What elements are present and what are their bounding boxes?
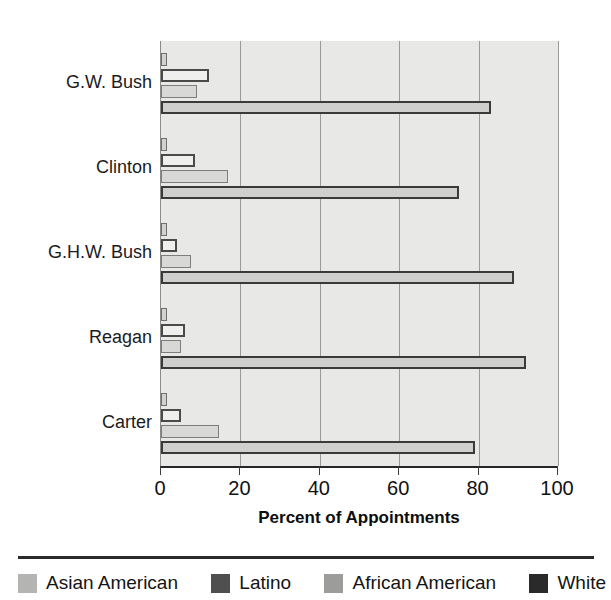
x-axis-tick (557, 466, 558, 475)
legend-swatch-icon (18, 574, 37, 593)
x-axis-tick (398, 466, 399, 475)
legend-item: White (529, 572, 606, 594)
bar-group (161, 126, 558, 211)
x-axis-tick-label: 100 (527, 477, 587, 500)
legend-label: Asian American (46, 572, 178, 594)
y-axis-tick-label: G.W. Bush (2, 72, 152, 93)
bar (161, 85, 197, 98)
y-axis-tick-label: Reagan (2, 327, 152, 348)
bar (161, 239, 177, 252)
x-axis-tick-label: 60 (368, 477, 428, 500)
bar (161, 340, 181, 353)
legend-divider (18, 556, 594, 559)
x-axis-tick-label: 40 (289, 477, 349, 500)
chart-legend: Asian AmericanLatinoAfrican AmericanWhit… (18, 570, 606, 596)
gridline (558, 41, 559, 466)
y-axis-tick-label: Clinton (2, 157, 152, 178)
x-axis-line (160, 466, 558, 468)
bar (161, 356, 526, 369)
bar (161, 425, 219, 438)
x-axis-tick (319, 466, 320, 475)
legend-swatch-icon (529, 574, 548, 593)
bar (161, 409, 181, 422)
legend-label: Latino (239, 572, 291, 594)
bar (161, 255, 191, 268)
bar-group (161, 381, 558, 466)
bar (161, 308, 167, 321)
bar (161, 170, 228, 183)
x-axis-tick (239, 466, 240, 475)
bar-group (161, 211, 558, 296)
legend-item: Asian American (18, 572, 178, 594)
bar (161, 138, 167, 151)
y-axis-tick-label: Carter (2, 412, 152, 433)
bar (161, 324, 185, 337)
x-axis-tick-label: 80 (448, 477, 508, 500)
x-axis-tick (160, 466, 161, 475)
bar (161, 393, 167, 406)
legend-label: African American (352, 572, 496, 594)
bar-group (161, 41, 558, 126)
legend-label: White (557, 572, 606, 594)
legend-swatch-icon (211, 574, 230, 593)
y-axis-tick-label: G.H.W. Bush (2, 242, 152, 263)
bar (161, 186, 459, 199)
bar (161, 101, 491, 114)
x-axis-tick-label: 20 (209, 477, 269, 500)
bar (161, 69, 209, 82)
bar-group (161, 296, 558, 381)
legend-item: Latino (211, 572, 291, 594)
x-axis-tick-label: 0 (130, 477, 190, 500)
x-axis-title: Percent of Appointments (160, 508, 558, 528)
bar-chart-figure: G.W. BushClintonG.H.W. BushReaganCarter … (0, 0, 611, 600)
plot-area (160, 41, 558, 466)
bar (161, 223, 167, 236)
bar (161, 53, 167, 66)
bar (161, 271, 514, 284)
legend-item: African American (324, 572, 496, 594)
legend-swatch-icon (324, 574, 343, 593)
x-axis-tick (478, 466, 479, 475)
y-axis-labels: G.W. BushClintonG.H.W. BushReaganCarter (0, 41, 152, 466)
bar (161, 154, 195, 167)
bar (161, 441, 475, 454)
